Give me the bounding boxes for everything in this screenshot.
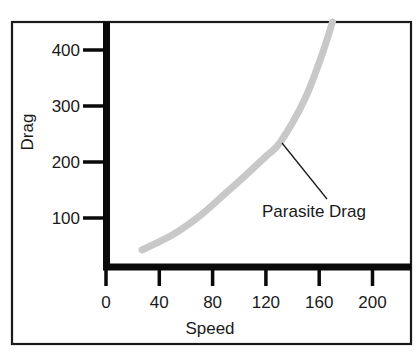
y-tick-label: 100 bbox=[52, 209, 80, 228]
x-axis: 04080120160200 Speed bbox=[101, 267, 411, 338]
annotation: Parasite Drag bbox=[262, 143, 366, 221]
series-label: Parasite Drag bbox=[262, 202, 366, 221]
y-tick-label: 300 bbox=[52, 97, 80, 116]
y-ticks: 100200300400 bbox=[52, 41, 104, 228]
y-tick-label: 200 bbox=[52, 153, 80, 172]
y-axis-label: Drag bbox=[18, 114, 37, 151]
x-axis-label: Speed bbox=[185, 319, 234, 338]
x-tick-label: 200 bbox=[358, 293, 386, 312]
x-tick-label: 0 bbox=[101, 293, 110, 312]
x-tick-label: 80 bbox=[203, 293, 222, 312]
x-tick-label: 160 bbox=[305, 293, 333, 312]
x-tick-label: 40 bbox=[150, 293, 169, 312]
leader-line bbox=[282, 143, 327, 199]
x-tick-label: 120 bbox=[252, 293, 280, 312]
y-tick-label: 400 bbox=[52, 41, 80, 60]
chart: 100200300400 Drag 04080120160200 Speed P… bbox=[0, 0, 420, 354]
x-ticks: 04080120160200 bbox=[101, 269, 386, 312]
y-axis: 100200300400 Drag bbox=[18, 22, 107, 270]
